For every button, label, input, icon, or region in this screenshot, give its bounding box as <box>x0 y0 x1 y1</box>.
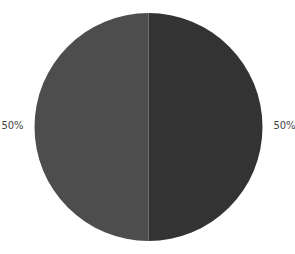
pie-slice <box>35 13 149 241</box>
slice-percent-label: 50% <box>1 120 23 131</box>
pie-slice <box>149 13 263 241</box>
slice-percent-label: 50% <box>273 120 295 131</box>
pie-chart: 50%50% <box>0 0 295 254</box>
